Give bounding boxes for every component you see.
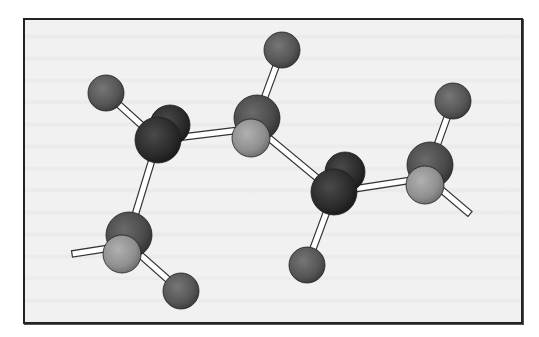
hydrogen-atom — [289, 247, 325, 283]
hydrogen-atom — [88, 75, 124, 111]
hydrogen-atom — [435, 83, 471, 119]
hydrogen-atom — [163, 273, 199, 309]
carbon-atom — [103, 235, 141, 273]
figure-stage — [0, 0, 539, 337]
carbon-atom — [406, 166, 444, 204]
hydrogen-atom — [264, 32, 300, 68]
molecule-model — [0, 0, 539, 337]
carbon-atom — [311, 169, 357, 215]
carbon-atom — [135, 117, 181, 163]
carbon-atom — [232, 119, 270, 157]
